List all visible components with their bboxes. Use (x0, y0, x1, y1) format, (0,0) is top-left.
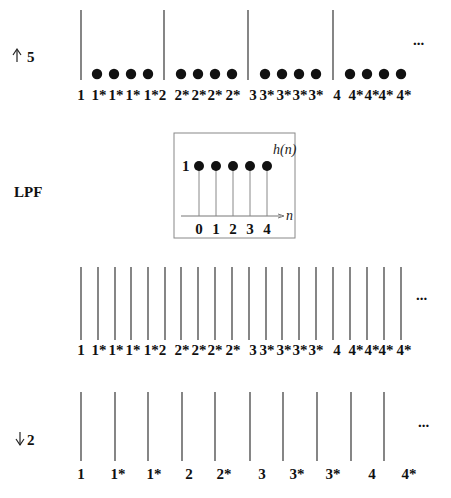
multirate-diagram: 5 11*1*1*1*22*2*2*2*33*3*3*3*44*4*4*4* .… (0, 0, 451, 498)
zero-sample-dot (109, 69, 119, 79)
inset-tick: 3 (246, 221, 254, 237)
zero-sample-dot (260, 69, 270, 79)
inset-tick: 0 (195, 221, 203, 237)
sample-label: 3 (258, 466, 266, 482)
down-arrow-icon (16, 432, 24, 445)
zero-sample-dot (92, 69, 102, 79)
sample-label: 3* (277, 87, 292, 103)
downsample-ellipsis: ... (418, 414, 430, 430)
inset-tick: 2 (229, 221, 237, 237)
sample-label: 4* (365, 342, 380, 358)
zero-sample-dot (277, 69, 287, 79)
zero-sample-dot (210, 69, 220, 79)
sample-label: 4* (397, 342, 412, 358)
inset-stem-dot (245, 161, 255, 171)
inset-stem-dot (228, 161, 238, 171)
sample-label: 1* (111, 466, 126, 482)
downsample-row: 2 11*1*22*33*3*44* ... (16, 392, 430, 482)
filtered-ellipsis: ... (416, 287, 428, 303)
sample-label: 4* (349, 87, 364, 103)
sample-label: 2* (226, 87, 241, 103)
sample-label: 1* (126, 87, 141, 103)
inset-tick: 1 (212, 221, 220, 237)
downsample-impulses (81, 392, 384, 461)
lpf-label: LPF (14, 184, 42, 200)
upsample-factor: 5 (27, 49, 35, 65)
zero-sample-dot (345, 69, 355, 79)
sample-label: 3* (309, 342, 324, 358)
sample-label: 1 (77, 466, 85, 482)
sample-label: 3* (326, 466, 341, 482)
up-arrow-icon (13, 49, 21, 62)
sample-label: 4 (333, 87, 341, 103)
sample-label: 4 (368, 466, 376, 482)
sample-label: 2* (192, 87, 207, 103)
sample-label: 3* (293, 342, 308, 358)
sample-label: 3* (309, 87, 324, 103)
sample-label: 2* (208, 342, 223, 358)
zero-sample-dot (311, 69, 321, 79)
sample-label: 3 (249, 342, 257, 358)
sample-label: 1* (147, 466, 162, 482)
inset-stem-dot (262, 161, 272, 171)
sample-label: 1* (126, 342, 141, 358)
sample-label: 4* (349, 342, 364, 358)
sample-label: 3* (290, 466, 305, 482)
sample-label: 4 (333, 342, 341, 358)
sample-label: 2* (175, 87, 190, 103)
lpf-row: LPF h(n) 1 n 01234 (14, 133, 297, 238)
zero-sample-dot (143, 69, 153, 79)
zero-sample-dot (176, 69, 186, 79)
sample-label: 4* (365, 87, 380, 103)
sample-label: 4* (397, 87, 412, 103)
sample-label: 3* (277, 342, 292, 358)
sample-label: 1 (77, 342, 85, 358)
upsample-impulses (81, 10, 333, 80)
sample-label: 2* (192, 342, 207, 358)
sample-label: 2* (217, 466, 232, 482)
zero-sample-dot (362, 69, 372, 79)
downsample-sample-labels: 11*1*22*33*3*44* (77, 466, 416, 482)
sample-label: 2 (185, 466, 193, 482)
sample-label: 3 (249, 87, 257, 103)
sample-label: 1*2 (144, 87, 167, 103)
sample-label: 4* (402, 466, 417, 482)
zero-sample-dot (379, 69, 389, 79)
inset-stem-dot (194, 161, 204, 171)
upsample-zero-dots (92, 69, 406, 79)
sample-label: 3* (260, 342, 275, 358)
sample-label: 3* (293, 87, 308, 103)
zero-sample-dot (396, 69, 406, 79)
downsample-factor: 2 (27, 432, 35, 448)
upsample-sample-labels: 11*1*1*1*22*2*2*2*33*3*3*3*44*4*4*4* (77, 87, 411, 103)
zero-sample-dot (227, 69, 237, 79)
inset-tick: 4 (263, 221, 271, 237)
zero-sample-dot (126, 69, 136, 79)
sample-label: 4* (379, 87, 394, 103)
sample-label: 2* (226, 342, 241, 358)
zero-sample-dot (294, 69, 304, 79)
zero-sample-dot (193, 69, 203, 79)
inset-title: h(n) (273, 142, 297, 158)
sample-label: 2* (175, 342, 190, 358)
sample-label: 1* (109, 342, 124, 358)
sample-label: 1* (92, 342, 107, 358)
sample-label: 1* (92, 87, 107, 103)
upsample-ellipsis: ... (413, 32, 425, 48)
sample-label: 2* (208, 87, 223, 103)
inset-amplitude-label: 1 (182, 158, 190, 174)
inset-stem-dot (211, 161, 221, 171)
filtered-impulses (81, 267, 401, 340)
sample-label: 3* (260, 87, 275, 103)
sample-label: 1* (109, 87, 124, 103)
inset-axis-label: n (286, 208, 293, 223)
sample-label: 1 (77, 87, 85, 103)
impulse-response-inset: h(n) 1 n 01234 (174, 133, 297, 238)
upsample-row: 5 11*1*1*1*22*2*2*2*33*3*3*3*44*4*4*4* .… (13, 10, 425, 103)
sample-label: 1*2 (144, 342, 167, 358)
sample-label: 4* (379, 342, 394, 358)
filtered-row: 11*1*1*1*22*2*2*2*33*3*3*3*44*4*4*4* ... (77, 267, 427, 358)
filtered-sample-labels: 11*1*1*1*22*2*2*2*33*3*3*3*44*4*4*4* (77, 342, 411, 358)
